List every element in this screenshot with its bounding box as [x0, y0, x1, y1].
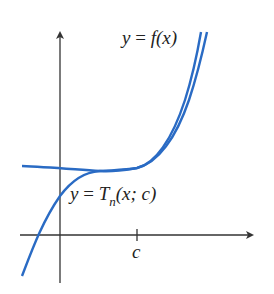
f-curve	[22, 32, 201, 276]
f-label-lhs: y	[122, 27, 130, 48]
taylor-curve	[22, 32, 207, 171]
f-label-arg: (x)	[156, 27, 177, 48]
taylor-curve-label: y = Tn(x; c)	[70, 184, 156, 203]
f-curve-label: y = f(x)	[122, 28, 177, 47]
taylor-label-func: T	[99, 183, 110, 204]
taylor-label-lhs: y	[70, 183, 78, 204]
tick-c-text: c	[132, 241, 140, 262]
taylor-label-eq: =	[83, 183, 94, 204]
f-label-eq: =	[135, 27, 146, 48]
taylor-label-subscript: n	[109, 194, 116, 209]
taylor-label-arg: (x; c)	[116, 183, 157, 204]
x-tick-label-c: c	[132, 242, 140, 261]
